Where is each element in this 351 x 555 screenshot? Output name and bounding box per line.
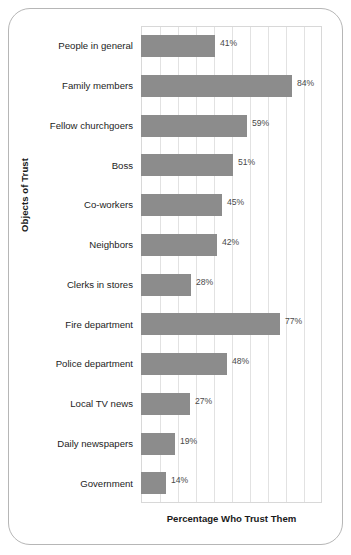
bar-value-label: 42% — [222, 237, 239, 247]
bar — [141, 353, 227, 375]
category-label: Local TV news — [0, 398, 133, 409]
bar-row: Government14% — [0, 463, 351, 503]
category-label: Boss — [0, 160, 133, 171]
bar-row: Neighbors42% — [0, 225, 351, 265]
category-label: Fire department — [0, 319, 133, 330]
bar-value-label: 19% — [180, 436, 197, 446]
bar — [141, 472, 166, 494]
bar-value-label: 51% — [238, 157, 255, 167]
x-axis-title: Percentage Who Trust Them — [141, 513, 322, 524]
category-label: Clerks in stores — [0, 279, 133, 290]
bar-row: Family members84% — [0, 66, 351, 106]
bar-value-label: 28% — [196, 277, 213, 287]
bar — [141, 433, 175, 455]
bar-value-label: 14% — [171, 475, 188, 485]
bar-value-label: 48% — [232, 356, 249, 366]
category-label: Daily newspapers — [0, 438, 133, 449]
bar-value-label: 41% — [220, 38, 237, 48]
bar-row: Co-workers45% — [0, 185, 351, 225]
category-label: Co-workers — [0, 199, 133, 210]
category-label: Police department — [0, 358, 133, 369]
category-label: Government — [0, 478, 133, 489]
bar-row: People in general41% — [0, 26, 351, 66]
bar-row: Fellow churchgoers59% — [0, 106, 351, 146]
category-label: Family members — [0, 80, 133, 91]
bar-row: Local TV news27% — [0, 384, 351, 424]
bar-value-label: 77% — [285, 316, 302, 326]
bar-value-label: 27% — [195, 396, 212, 406]
bar — [141, 194, 222, 216]
bar-row: Daily newspapers19% — [0, 424, 351, 464]
bar-row: Fire department77% — [0, 304, 351, 344]
category-label: Fellow churchgoers — [0, 120, 133, 131]
bar — [141, 115, 247, 137]
bar-row: Boss51% — [0, 145, 351, 185]
bar — [141, 393, 190, 415]
bar-value-label: 84% — [297, 78, 314, 88]
bar — [141, 75, 292, 97]
bar-value-label: 45% — [227, 197, 244, 207]
bar-row: Clerks in stores28% — [0, 265, 351, 305]
bar-value-label: 59% — [252, 118, 269, 128]
bar — [141, 234, 217, 256]
category-label: Neighbors — [0, 239, 133, 250]
bar-rows-container: People in general41%Family members84%Fel… — [0, 26, 351, 503]
bar — [141, 154, 233, 176]
bar-row: Police department48% — [0, 344, 351, 384]
bar — [141, 313, 280, 335]
category-label: People in general — [0, 40, 133, 51]
bar — [141, 274, 191, 296]
bar — [141, 35, 215, 57]
